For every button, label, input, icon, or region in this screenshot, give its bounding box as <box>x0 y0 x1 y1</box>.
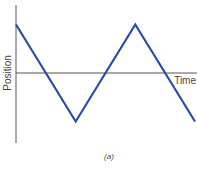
figure-caption: (a) <box>104 152 114 161</box>
chart: Position Time (a) <box>0 0 197 183</box>
y-axis-label: Position <box>2 55 13 91</box>
x-axis-label: Time <box>174 75 196 86</box>
